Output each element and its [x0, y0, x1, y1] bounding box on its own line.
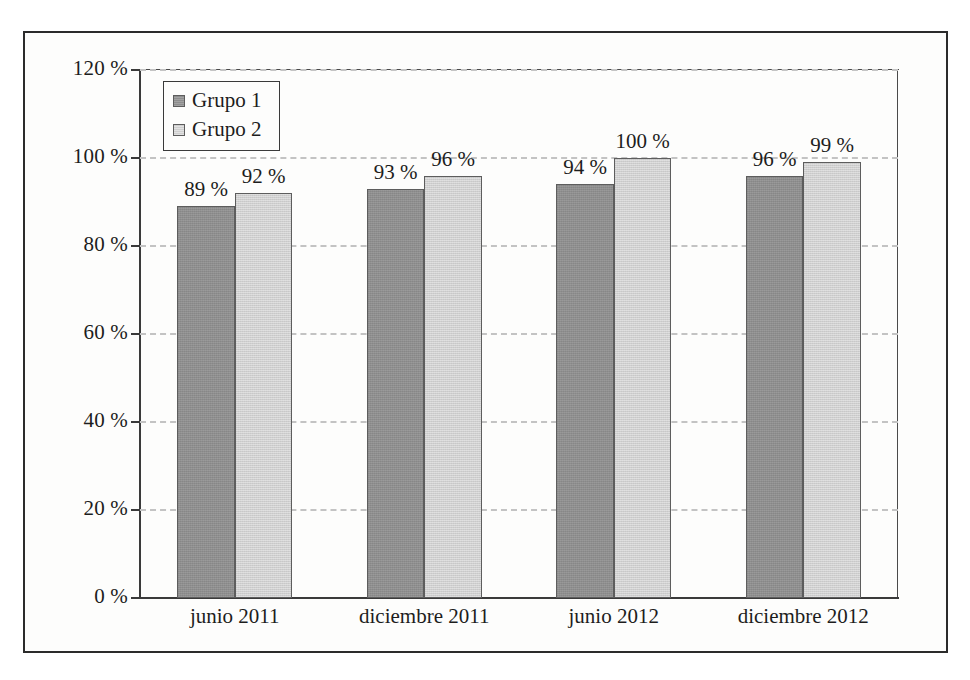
y-axis-tick-mark [131, 245, 140, 247]
bar-grupo-2 [803, 162, 861, 598]
y-axis-tick-label: 0 % [40, 584, 128, 609]
y-axis-tick-mark [131, 333, 140, 335]
bar-grupo-1 [556, 184, 614, 598]
legend-swatch-icon-grupo-1 [173, 95, 185, 107]
legend-label-grupo-2: Grupo 2 [192, 119, 261, 140]
legend-item-grupo-1[interactable]: Grupo 1 [173, 90, 261, 111]
bar-grupo-2 [614, 158, 672, 598]
x-axis-category-label: junio 2011 [140, 604, 330, 629]
y-axis-tick-mark [131, 157, 140, 159]
y-axis-tick-label: 100 % [40, 144, 128, 169]
chart-legend: Grupo 1 Grupo 2 [163, 81, 280, 151]
x-axis-category-label: junio 2012 [519, 604, 709, 629]
bar-grupo-1 [746, 176, 804, 598]
y-axis-tick-mark [131, 69, 140, 71]
y-axis-tick-mark [131, 597, 140, 599]
bar-value-label: 92 % [217, 164, 311, 189]
y-axis-tick-label: 20 % [40, 496, 128, 521]
y-axis-tick-label: 40 % [40, 408, 128, 433]
legend-swatch-icon-grupo-2 [173, 124, 185, 136]
bar-grupo-2 [235, 193, 293, 598]
gridline [140, 69, 898, 71]
x-axis-category-label: diciembre 2012 [709, 604, 899, 629]
y-axis-tick-label: 80 % [40, 232, 128, 257]
bar-grupo-1 [177, 206, 235, 598]
bar-grupo-1 [367, 189, 425, 598]
y-axis-tick-mark [131, 421, 140, 423]
bar-chart: 0 %20 %40 %60 %80 %100 %120 %89 %92 %jun… [0, 0, 970, 680]
bar-grupo-2 [424, 176, 482, 598]
legend-label-grupo-1: Grupo 1 [192, 90, 261, 111]
y-axis-tick-mark [131, 509, 140, 511]
x-axis-category-label: diciembre 2011 [330, 604, 520, 629]
y-axis-tick-label: 120 % [40, 56, 128, 81]
bar-value-label: 99 % [785, 133, 879, 158]
legend-item-grupo-2[interactable]: Grupo 2 [173, 119, 261, 140]
bar-value-label: 100 % [596, 129, 690, 154]
y-axis-tick-label: 60 % [40, 320, 128, 345]
bar-value-label: 96 % [406, 147, 500, 172]
